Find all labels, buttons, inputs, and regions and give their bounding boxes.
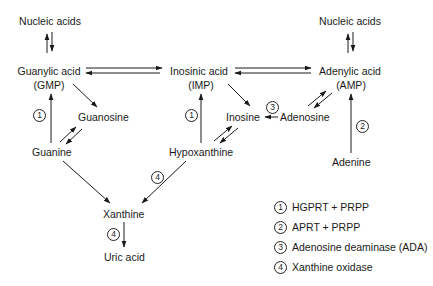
- legend-marker: 2: [274, 221, 287, 234]
- arrow-amp-to-adenosine: [314, 93, 332, 108]
- node-hypoxanthine: Hypoxanthine: [169, 146, 233, 158]
- step-marker-xanthine-to-uric-acid: 4: [107, 228, 120, 241]
- legend-marker: 4: [274, 261, 287, 274]
- step-marker-guanine-to-gmp: 1: [33, 109, 46, 122]
- arrow-imp-to-inosine: [228, 84, 250, 106]
- arrow-hypoxanthine-to-inosine: [214, 126, 232, 141]
- arrow-guanine-to-xanthine: [63, 161, 110, 203]
- node-uric-acid: Uric acid: [104, 251, 145, 263]
- node-adenylic-acid: Adenylic acid: [319, 65, 381, 77]
- node-nucleic-acids-right: Nucleic acids: [319, 15, 381, 27]
- arrow-guanine-to-guanosine: [60, 127, 76, 142]
- step-marker-adenosine-to-inosine: 3: [266, 101, 279, 114]
- node-adenine: Adenine: [332, 156, 371, 168]
- arrow-guanosine-to-guanine: [66, 129, 82, 144]
- step-marker-hypoxanthine-to-xanthine: 4: [151, 171, 164, 184]
- node-inosinic-acid-abbr: (IMP): [188, 79, 214, 91]
- arrow-gmp-to-guanosine: [73, 84, 97, 107]
- legend-marker: 1: [274, 201, 287, 214]
- legend-text: Xanthine oxidase: [292, 261, 373, 273]
- node-inosine: Inosine: [226, 111, 260, 123]
- node-adenylic-acid-abbr: (AMP): [336, 79, 366, 91]
- purine-metabolism-diagram: Nucleic acids Nucleic acids Guanylic aci…: [0, 0, 433, 286]
- node-inosinic-acid: Inosinic acid: [170, 65, 228, 77]
- arrow-inosine-to-hypoxanthine: [220, 128, 238, 143]
- arrow-adenosine-to-amp: [308, 91, 326, 106]
- legend-text: APRT + PRPP: [292, 221, 360, 233]
- step-marker-adenine-to-amp: 2: [356, 120, 369, 133]
- node-guanylic-acid: Guanylic acid: [17, 65, 80, 77]
- legend-text: HGPRT + PRPP: [292, 201, 369, 213]
- legend-text: Adenosine deaminase (ADA): [292, 241, 427, 253]
- node-guanine: Guanine: [32, 146, 72, 158]
- node-adenosine: Adenosine: [280, 111, 330, 123]
- node-nucleic-acids-left: Nucleic acids: [19, 15, 81, 27]
- node-guanylic-acid-abbr: (GMP): [34, 79, 65, 91]
- legend-marker: 3: [274, 241, 287, 254]
- step-marker-hypoxanthine-to-imp: 1: [185, 109, 198, 122]
- node-guanosine: Guanosine: [78, 111, 129, 123]
- arrow-hypoxanthine-to-xanthine: [142, 161, 186, 203]
- node-xanthine: Xanthine: [103, 208, 144, 220]
